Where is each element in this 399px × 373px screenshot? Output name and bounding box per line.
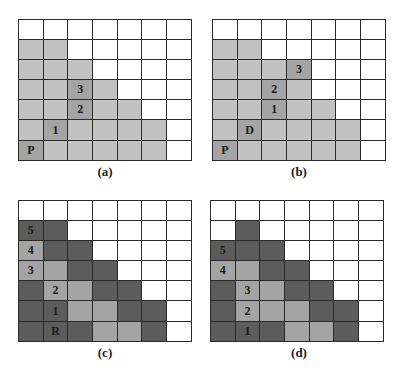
grid-cell bbox=[213, 100, 238, 120]
grid-cell: P bbox=[19, 141, 44, 161]
grid-cell bbox=[142, 80, 167, 100]
grid-cell bbox=[93, 301, 118, 321]
grid-cell bbox=[238, 100, 263, 120]
grid-cell bbox=[213, 80, 238, 100]
grid-cell bbox=[285, 281, 310, 301]
grid-cell bbox=[93, 80, 118, 100]
grid-cell bbox=[334, 201, 359, 221]
grid-cell bbox=[336, 100, 361, 120]
grid-cell: 3 bbox=[68, 80, 93, 100]
grid-cell bbox=[19, 100, 44, 120]
grid-cell bbox=[167, 241, 192, 261]
grid-cell bbox=[19, 201, 44, 221]
grid-cell bbox=[68, 141, 93, 161]
grid-cell bbox=[93, 141, 118, 161]
grid-cell bbox=[167, 221, 192, 241]
grid-cell: D bbox=[238, 120, 263, 140]
grid-cell bbox=[312, 141, 337, 161]
grid-d: 54321 bbox=[210, 200, 384, 342]
grid-cell bbox=[68, 322, 93, 342]
grid-cell bbox=[310, 221, 335, 241]
grid-cell: 1 bbox=[262, 100, 287, 120]
grid-cell bbox=[236, 221, 261, 241]
grid-cell bbox=[68, 241, 93, 261]
grid-cell bbox=[334, 261, 359, 281]
grid-cell bbox=[142, 20, 167, 40]
grid-cell bbox=[44, 141, 69, 161]
grid-cell bbox=[211, 221, 236, 241]
grid-cell: 1 bbox=[236, 322, 261, 342]
grid-cell bbox=[312, 80, 337, 100]
grid-cell bbox=[260, 221, 285, 241]
grid-cell: 5 bbox=[19, 221, 44, 241]
grid-cell bbox=[19, 60, 44, 80]
grid-cell bbox=[93, 241, 118, 261]
grid-cell bbox=[68, 201, 93, 221]
grid-cell bbox=[336, 80, 361, 100]
grid-cell bbox=[312, 20, 337, 40]
grid-cell bbox=[236, 201, 261, 221]
grid-cell bbox=[359, 322, 384, 342]
grid-cell bbox=[44, 20, 69, 40]
grid-cell bbox=[359, 301, 384, 321]
grid-cell bbox=[44, 60, 69, 80]
grid-cell bbox=[310, 301, 335, 321]
grid-cell bbox=[142, 40, 167, 60]
grid-cell bbox=[118, 281, 143, 301]
grid-cell bbox=[334, 221, 359, 241]
grid-cell bbox=[285, 201, 310, 221]
grid-cell bbox=[213, 120, 238, 140]
grid-cell bbox=[260, 301, 285, 321]
grid-cell bbox=[238, 141, 263, 161]
caption-d: (d) bbox=[269, 345, 329, 361]
grid-cell bbox=[310, 201, 335, 221]
grid-cell bbox=[211, 322, 236, 342]
grid-cell bbox=[361, 40, 386, 60]
grid-cell bbox=[334, 301, 359, 321]
grid-cell bbox=[236, 241, 261, 261]
grid-cell: 2 bbox=[236, 301, 261, 321]
grid-cell bbox=[167, 261, 192, 281]
grid-cell: 2 bbox=[262, 80, 287, 100]
grid-cell bbox=[167, 60, 192, 80]
grid-cell bbox=[359, 281, 384, 301]
grid-cell bbox=[287, 40, 312, 60]
grid-cell: 5 bbox=[211, 241, 236, 261]
grid-cell bbox=[310, 281, 335, 301]
grid-cell bbox=[310, 241, 335, 261]
grid-cell bbox=[44, 221, 69, 241]
grid-cell bbox=[262, 20, 287, 40]
grid-cell bbox=[167, 20, 192, 40]
grid-cell bbox=[334, 241, 359, 261]
grid-cell bbox=[336, 141, 361, 161]
grid-cell bbox=[287, 80, 312, 100]
grid-cell bbox=[19, 40, 44, 60]
grid-cell bbox=[312, 40, 337, 60]
grid-cell bbox=[118, 80, 143, 100]
grid-cell bbox=[118, 261, 143, 281]
grid-cell bbox=[93, 60, 118, 80]
grid-b: 321DP bbox=[212, 19, 386, 161]
grid-cell bbox=[44, 40, 69, 60]
grid-cell: 3 bbox=[19, 261, 44, 281]
grid-cell bbox=[361, 100, 386, 120]
grid-cell bbox=[93, 221, 118, 241]
grid-cell bbox=[359, 241, 384, 261]
grid-cell bbox=[19, 80, 44, 100]
grid-cell bbox=[118, 241, 143, 261]
grid-cell: 2 bbox=[68, 100, 93, 120]
caption-b: (b) bbox=[269, 164, 329, 180]
grid-cell bbox=[118, 40, 143, 60]
grid-cell bbox=[262, 40, 287, 60]
grid-cell bbox=[310, 322, 335, 342]
grid-cell bbox=[44, 80, 69, 100]
grid-cell bbox=[142, 241, 167, 261]
grid-cell bbox=[93, 120, 118, 140]
grid-cell bbox=[336, 120, 361, 140]
grid-cell bbox=[68, 20, 93, 40]
grid-cell bbox=[93, 100, 118, 120]
grid-cell bbox=[310, 261, 335, 281]
grid-cell bbox=[118, 221, 143, 241]
grid-cell bbox=[19, 20, 44, 40]
grid-cell bbox=[167, 322, 192, 342]
